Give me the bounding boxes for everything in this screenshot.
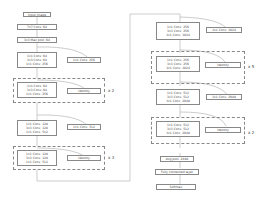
identity-shortcut-1: Identity: [67, 88, 101, 94]
repeat-label-1: x 2: [108, 88, 114, 93]
conv2-block-box: 1x1 Conv, 64 3x3 Conv, 64 1x1 Conv, 256: [17, 52, 57, 68]
repeat-label-3: x 5: [248, 64, 254, 69]
conv3-projection-box: 1x1 Conv, 512: [67, 124, 101, 130]
conv3-identity-block: 1x1 Conv, 128 3x3 Conv, 128 1x1 Conv, 51…: [17, 150, 57, 166]
repeat-label-4: x 2: [248, 130, 254, 135]
conv5-identity-block: 1x1 Conv, 512 3x3 Conv, 512 1x1 Conv, 20…: [156, 121, 200, 137]
conv1-box: 7x7 Conv, 64: [17, 24, 57, 30]
identity-shortcut-4: Identity: [205, 127, 241, 133]
conv3-block-box: 1x1 Conv, 128 3x3 Conv, 128 1x1 Conv, 51…: [17, 120, 57, 136]
identity-shortcut-2: Identity: [67, 155, 101, 161]
input-image-box: Input image: [23, 12, 51, 17]
maxpool-box: 3x3 Max pool, 64: [17, 37, 57, 43]
softmax-box: Softmax: [156, 184, 196, 190]
conv5-block-box: 1x1 Conv, 512 3x3 Conv, 512 1x1 Conv, 20…: [156, 89, 200, 105]
conv4-projection-box: 1x1 Conv, 1024: [206, 27, 242, 33]
avgpool-box: Avg pool, 2048: [160, 156, 194, 162]
repeat-label-2: x 3: [108, 155, 114, 160]
identity-shortcut-3: Identity: [205, 62, 241, 68]
conv2-projection-box: 1x1 Conv, 256: [67, 57, 101, 63]
conv4-block-box: 1x1 Conv, 256 3x3 Conv, 256 1x1 Conv, 10…: [156, 22, 200, 40]
conv5-projection-box: 1x1 Conv, 2048: [206, 94, 242, 100]
fc-layer-box: Fully connected layer: [155, 169, 199, 175]
conv4-identity-block: 1x1 Conv, 256 3x3 Conv, 256 1x1 Conv, 10…: [156, 56, 200, 72]
conv2-identity-block: 1x1 Conv, 64 3x3 Conv, 64 1x1 Conv, 256: [17, 82, 57, 98]
